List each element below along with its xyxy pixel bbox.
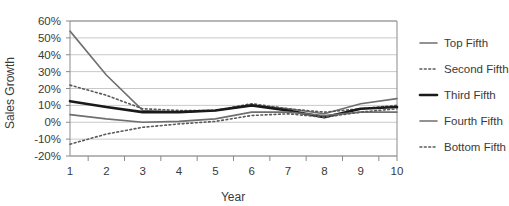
series-line-top-fifth: [70, 31, 397, 114]
x-tick-label: 2: [103, 165, 109, 177]
y-tick-label: 20%: [38, 83, 61, 95]
y-tick-label: -10%: [34, 133, 61, 145]
x-tick-label: 1: [67, 165, 73, 177]
legend-item-bottom-fifth[interactable]: Bottom Fifth: [420, 141, 506, 153]
x-tick-label: 5: [212, 165, 218, 177]
chart-container: 60%50%40%30%20%10%0%-10%-20% 12345678910…: [0, 0, 509, 206]
x-tick-label: 3: [139, 165, 145, 177]
y-tick-label: -20%: [34, 150, 61, 162]
y-axis-title: Sales Growth: [3, 57, 17, 129]
legend-item-third-fifth[interactable]: Third Fifth: [420, 89, 496, 101]
x-axis-title: Year: [221, 190, 245, 204]
legend-item-second-fifth[interactable]: Second Fifth: [420, 63, 509, 75]
y-tick-label: 10%: [38, 99, 61, 111]
data-series: [70, 31, 397, 144]
legend-label-third-fifth: Third Fifth: [444, 89, 496, 101]
sales-growth-line-chart: 60%50%40%30%20%10%0%-10%-20% 12345678910…: [0, 0, 509, 206]
y-tick-label: 60%: [38, 15, 61, 27]
legend-label-fourth-fifth: Fourth Fifth: [444, 115, 503, 127]
x-tick-label: 4: [176, 165, 183, 177]
x-tick-label: 7: [285, 165, 291, 177]
y-tick-label: 0%: [44, 116, 61, 128]
legend-label-bottom-fifth: Bottom Fifth: [444, 141, 506, 153]
x-axis-tick-labels: 12345678910: [67, 165, 404, 177]
y-tick-label: 30%: [38, 66, 61, 78]
y-axis-tick-labels: 60%50%40%30%20%10%0%-10%-20%: [34, 15, 61, 162]
x-tick-label: 6: [248, 165, 254, 177]
legend-item-top-fifth[interactable]: Top Fifth: [420, 37, 488, 49]
x-tick-label: 9: [357, 165, 363, 177]
x-tick-label: 8: [321, 165, 327, 177]
legend-item-fourth-fifth[interactable]: Fourth Fifth: [420, 115, 503, 127]
y-tick-label: 50%: [38, 32, 61, 44]
y-tick-label: 40%: [38, 49, 61, 61]
legend-label-second-fifth: Second Fifth: [444, 63, 509, 75]
y-axis-ticks: [66, 21, 70, 156]
legend: Top FifthSecond FifthThird FifthFourth F…: [420, 37, 509, 153]
x-tick-label: 10: [391, 165, 404, 177]
legend-label-top-fifth: Top Fifth: [444, 37, 488, 49]
x-axis-ticks: [88, 156, 397, 161]
